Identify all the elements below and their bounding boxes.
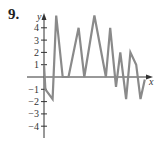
- y-tick-label: −1: [28, 84, 39, 95]
- y-tick-label: −2: [28, 96, 39, 107]
- y-tick-label: 2: [34, 47, 39, 58]
- y-tick-label: 1: [34, 59, 39, 70]
- data-line: [44, 16, 145, 100]
- axes: xy: [27, 11, 154, 138]
- y-axis-label: y: [36, 11, 42, 22]
- x-axis-label: x: [148, 76, 154, 87]
- y-tick-label: −4: [28, 121, 39, 132]
- y-tick-label: 4: [34, 22, 39, 33]
- y-tick-label: −3: [28, 108, 39, 119]
- line-chart: xy −4−3−2−11234: [0, 0, 161, 146]
- y-tick-label: 3: [34, 35, 39, 46]
- y-arrow-icon: [42, 13, 47, 20]
